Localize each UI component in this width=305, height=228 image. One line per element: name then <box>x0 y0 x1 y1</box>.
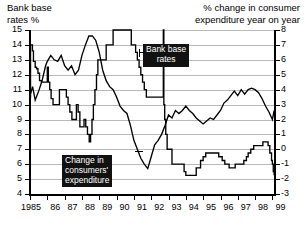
x-tick-label: 93 <box>170 202 184 212</box>
x-tick <box>238 196 239 200</box>
left-tick-label: 7 <box>0 143 22 153</box>
left-tick <box>25 45 29 46</box>
right-axis-line <box>274 30 276 195</box>
left-tick <box>25 30 29 31</box>
x-tick-label: 87 <box>66 202 80 212</box>
right-tick-label: 5 <box>281 69 305 79</box>
right-tick <box>276 134 280 135</box>
x-tick-label: 86 <box>48 202 62 212</box>
left-tick-label: 12 <box>0 69 22 79</box>
right-tick <box>276 45 280 46</box>
x-tick <box>82 196 83 200</box>
right-tick <box>276 194 280 195</box>
left-tick-label: 11 <box>0 84 22 94</box>
left-tick-label: 4 <box>0 188 22 198</box>
right-tick-label: -1 <box>281 158 305 168</box>
x-tick <box>134 196 135 200</box>
right-tick <box>276 60 280 61</box>
right-tick <box>276 105 280 106</box>
left-axis-title: Bank base rates % <box>7 2 52 25</box>
x-tick <box>203 196 204 200</box>
left-tick-label: 10 <box>0 99 22 109</box>
right-tick-label: -2 <box>281 173 305 183</box>
left-tick-label: 14 <box>0 39 22 49</box>
x-tick <box>99 196 100 200</box>
left-tick <box>25 164 29 165</box>
left-tick <box>25 194 29 195</box>
x-tick <box>65 196 66 200</box>
x-tick-label: 90 <box>118 202 132 212</box>
left-tick <box>25 60 29 61</box>
x-tick-label: 95 <box>204 202 218 212</box>
left-tick <box>25 75 29 76</box>
left-tick <box>25 179 29 180</box>
x-tick-label: 94 <box>187 202 201 212</box>
x-tick <box>169 196 170 200</box>
x-tick-label: 92 <box>152 202 166 212</box>
right-tick <box>276 120 280 121</box>
left-tick <box>25 90 29 91</box>
left-tick-label: 13 <box>0 54 22 64</box>
right-tick <box>276 90 280 91</box>
x-tick <box>151 196 152 200</box>
chart-figure: Bank base rates % % change in consumer e… <box>0 0 305 228</box>
x-tick-label: 98 <box>256 202 270 212</box>
right-tick <box>276 75 280 76</box>
x-axis-line <box>29 194 276 196</box>
left-tick-label: 15 <box>0 24 22 34</box>
right-tick-label: 7 <box>281 39 305 49</box>
left-tick-label: 9 <box>0 114 22 124</box>
x-tick-label: 97 <box>239 202 253 212</box>
right-tick <box>276 149 280 150</box>
leader-line <box>135 151 143 152</box>
callout-consumers-expenditure: Change in consumers' expenditure <box>62 155 112 187</box>
x-tick-label: 96 <box>222 202 236 212</box>
left-tick-label: 6 <box>0 158 22 168</box>
right-tick-label: 2 <box>281 114 305 124</box>
x-tick <box>30 196 31 200</box>
right-tick <box>276 30 280 31</box>
x-tick-label: 89 <box>100 202 114 212</box>
left-tick <box>25 120 29 121</box>
left-tick <box>25 134 29 135</box>
left-tick-label: 8 <box>0 128 22 138</box>
x-tick-label: 91 <box>135 202 149 212</box>
x-tick <box>186 196 187 200</box>
right-tick-label: 6 <box>281 54 305 64</box>
x-tick-label: 1985 <box>18 202 44 212</box>
x-tick <box>221 196 222 200</box>
leader-line <box>139 49 140 57</box>
right-tick-label: 3 <box>281 99 305 109</box>
left-axis-line <box>29 30 31 195</box>
x-tick-label: 88 <box>83 202 97 212</box>
right-tick <box>276 164 280 165</box>
x-tick <box>47 196 48 200</box>
x-tick <box>272 196 273 200</box>
right-tick-label: 1 <box>281 128 305 138</box>
x-tick <box>117 196 118 200</box>
right-tick <box>276 179 280 180</box>
right-tick-label: 4 <box>281 84 305 94</box>
left-tick-label: 5 <box>0 173 22 183</box>
right-axis-title: % change in consumer expenditure year on… <box>195 2 300 25</box>
x-tick-label: 99 <box>273 202 287 212</box>
x-tick <box>255 196 256 200</box>
right-tick-label: 8 <box>281 24 305 34</box>
left-tick <box>25 105 29 106</box>
left-tick <box>25 149 29 150</box>
right-tick-label: -3 <box>281 188 305 198</box>
right-tick-label: 0 <box>281 143 305 153</box>
callout-bank-base-rates: Bank base rates <box>143 44 189 67</box>
